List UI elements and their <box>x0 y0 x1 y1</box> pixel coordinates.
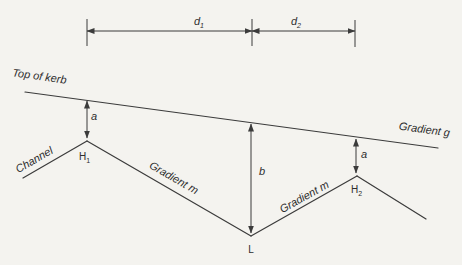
label-h2-sub: 2 <box>358 190 362 197</box>
label-h2-main: H <box>351 184 358 195</box>
label-gradient-g: Gradient g <box>398 120 451 139</box>
label-a-left: a <box>91 110 97 122</box>
label-gradient-m-left: Gradient m <box>147 159 200 197</box>
label-h1-sub: 1 <box>86 157 90 164</box>
label-h1: H1 <box>79 151 90 164</box>
gradient-diagram-svg: d1 d2 Top of kerb Gradient g Channel Gra… <box>0 0 462 265</box>
downstream-tail-line <box>357 176 426 219</box>
label-d1: d1 <box>194 15 204 29</box>
label-l: L <box>248 244 254 255</box>
label-gradient-m-right: Gradient m <box>277 178 330 215</box>
label-h2: H2 <box>351 184 362 197</box>
label-channel: Channel <box>13 144 55 175</box>
label-top-of-kerb: Top of kerb <box>12 66 68 85</box>
drainage-gradient-figure: d1 d2 Top of kerb Gradient g Channel Gra… <box>0 0 462 265</box>
label-d1-sub: 1 <box>200 22 204 29</box>
label-h1-main: H <box>79 151 86 162</box>
gradient-m-left-line <box>87 141 251 236</box>
label-a-right: a <box>361 148 367 160</box>
label-d2-sub: 2 <box>296 22 301 29</box>
label-d2: d2 <box>291 15 301 29</box>
gradient-m-right-line <box>251 176 357 236</box>
label-b: b <box>259 165 265 177</box>
